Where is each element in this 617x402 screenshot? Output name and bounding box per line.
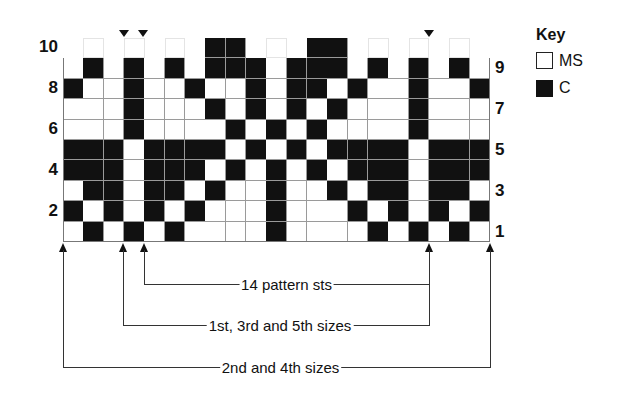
- grid-cell: [185, 222, 206, 242]
- grid-cell: [429, 38, 450, 58]
- grid-cell: [287, 181, 308, 201]
- grid-cell: [287, 222, 308, 242]
- grid-cell: [368, 58, 389, 78]
- grid-cell: [83, 160, 104, 180]
- grid-cell: [388, 79, 409, 99]
- grid-cell: [327, 222, 348, 242]
- grid-cell: [327, 201, 348, 221]
- grid-cell: [266, 58, 287, 78]
- grid-cell: [205, 120, 226, 140]
- grid-cell: [104, 58, 125, 78]
- grid-cell: [307, 140, 328, 160]
- row-label-7: 7: [495, 99, 504, 119]
- grid-cell: [124, 79, 145, 99]
- grid-cell: [205, 79, 226, 99]
- grid-cell: [429, 222, 450, 242]
- bracket-line: [429, 250, 430, 325]
- row-label-9: 9: [495, 58, 504, 78]
- grid-cell: [409, 79, 430, 99]
- grid-cell: [368, 120, 389, 140]
- grid-cell: [449, 38, 470, 58]
- grid-cell: [348, 79, 369, 99]
- grid-cell: [470, 38, 491, 58]
- grid-cell: [348, 201, 369, 221]
- grid-cell: [409, 120, 430, 140]
- grid-cell: [307, 181, 328, 201]
- grid-cell: [327, 79, 348, 99]
- grid-cell: [104, 79, 125, 99]
- grid-cell: [63, 38, 84, 58]
- grid-cell: [83, 181, 104, 201]
- grid-cell: [185, 120, 206, 140]
- row-label-10: 10: [30, 37, 58, 57]
- grid-cell: [348, 181, 369, 201]
- grid-cell: [388, 140, 409, 160]
- grid-cell: [327, 140, 348, 160]
- grid-cell: [144, 79, 165, 99]
- grid-cell: [165, 140, 186, 160]
- grid-cell: [226, 222, 247, 242]
- grid-cell: [307, 222, 328, 242]
- grid-cell: [327, 160, 348, 180]
- marker-down-arrow-icon: [138, 30, 148, 37]
- marker-down-arrow-icon: [424, 30, 434, 37]
- grid-cell: [104, 160, 125, 180]
- row-label-8: 8: [38, 78, 58, 98]
- grid-cell: [124, 160, 145, 180]
- grid-cell: [124, 38, 145, 58]
- grid-cell: [63, 79, 84, 99]
- grid-cell: [205, 140, 226, 160]
- grid-cell: [307, 201, 328, 221]
- grid-cell: [104, 120, 125, 140]
- bracket-label: 1st, 3rd and 5th sizes: [207, 317, 354, 334]
- grid-cell: [388, 99, 409, 119]
- black-square-icon: [536, 80, 553, 97]
- grid-cell: [409, 99, 430, 119]
- grid-cell: [165, 222, 186, 242]
- grid-cell: [470, 99, 491, 119]
- grid-cell: [470, 120, 491, 140]
- grid-cell: [470, 58, 491, 78]
- grid-cell: [144, 99, 165, 119]
- bracket-label: 14 pattern sts: [239, 276, 334, 293]
- grid-cell: [287, 201, 308, 221]
- grid-cell: [470, 222, 491, 242]
- grid-cell: [429, 140, 450, 160]
- grid-cell: [368, 201, 389, 221]
- grid-cell: [368, 222, 389, 242]
- grid-cell: [429, 58, 450, 78]
- grid-cell: [449, 99, 470, 119]
- grid-cell: [205, 99, 226, 119]
- grid-cell: [226, 38, 247, 58]
- grid-cell: [63, 120, 84, 140]
- grid-cell: [226, 201, 247, 221]
- grid-cell: [409, 58, 430, 78]
- grid-cell: [429, 160, 450, 180]
- grid-cell: [124, 140, 145, 160]
- grid-cell: [226, 58, 247, 78]
- grid-cell: [63, 140, 84, 160]
- grid-cell: [165, 201, 186, 221]
- grid-cell: [165, 38, 186, 58]
- grid-cell: [144, 222, 165, 242]
- grid-cell: [83, 140, 104, 160]
- grid-cell: [63, 222, 84, 242]
- grid-cell: [348, 140, 369, 160]
- grid-cell: [327, 38, 348, 58]
- grid-cell: [144, 58, 165, 78]
- grid-cell: [368, 38, 389, 58]
- grid-cell: [327, 181, 348, 201]
- grid-cell: [449, 140, 470, 160]
- grid-cell: [226, 99, 247, 119]
- grid-cell: [246, 201, 267, 221]
- grid-cell: [205, 201, 226, 221]
- grid-cell: [205, 222, 226, 242]
- grid-cell: [388, 38, 409, 58]
- grid-cell: [144, 160, 165, 180]
- grid-cell: [63, 201, 84, 221]
- grid-cell: [409, 38, 430, 58]
- grid-cell: [185, 160, 206, 180]
- grid-cell: [429, 181, 450, 201]
- grid-cell: [185, 58, 206, 78]
- grid-cell: [388, 58, 409, 78]
